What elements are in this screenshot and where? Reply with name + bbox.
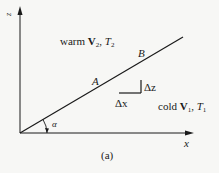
cold-vector: V <box>180 100 188 112</box>
angle-alpha-label: α <box>52 120 57 129</box>
point-a-label: A <box>92 76 99 87</box>
cold-separator: , <box>191 100 194 112</box>
cold-temperature-subscript: 1 <box>203 106 207 114</box>
front-line <box>20 37 183 133</box>
x-axis-arrow-icon <box>185 131 194 136</box>
cold-region-label: cold V1, T1 <box>158 101 206 114</box>
z-axis-arrow-icon <box>18 6 23 15</box>
cold-word: cold <box>158 100 177 112</box>
warm-separator: , <box>99 35 102 47</box>
z-axis-label: z <box>5 13 13 16</box>
figure-caption: (a) <box>101 150 113 161</box>
x-axis-label: x <box>184 138 189 149</box>
warm-vector: V <box>88 35 96 47</box>
delta-x-label: Δx <box>115 98 128 109</box>
point-b-label: B <box>138 48 145 59</box>
angle-arrow-icon <box>45 128 49 133</box>
warm-region-label: warm V2, T2 <box>60 36 114 49</box>
delta-z-label: Δz <box>144 82 156 93</box>
frontal-surface-diagram: z x warm V2, T2 cold V1, T1 A B Δz Δx α … <box>0 0 219 173</box>
warm-temperature-subscript: 2 <box>111 41 115 49</box>
warm-word: warm <box>60 35 85 47</box>
